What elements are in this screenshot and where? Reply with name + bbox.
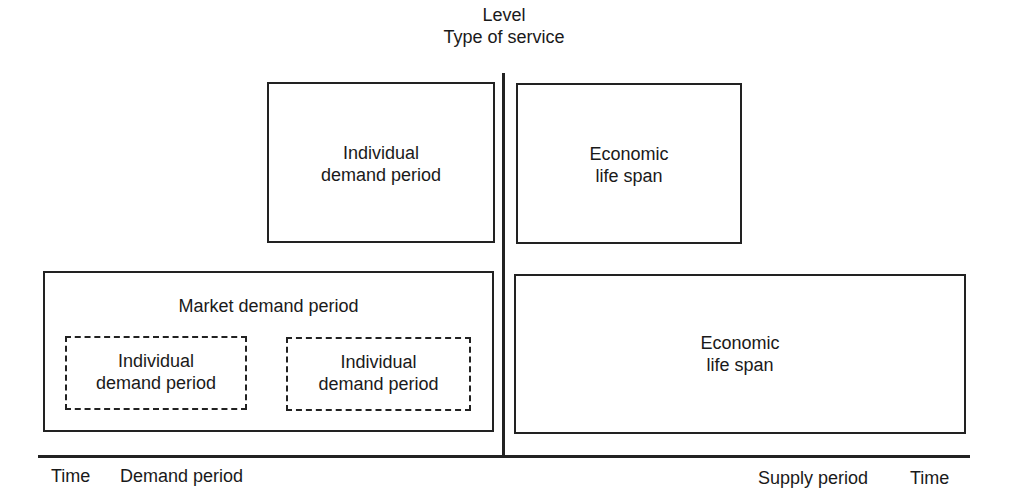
market-demand-period-title: Market demand period [45,295,492,317]
upper-economic-life-span-box: Economic life span [516,83,742,244]
upper-individual-demand-period-label: Individual demand period [269,142,493,186]
subbox-1-label: Individual demand period [67,350,245,394]
subbox-1-line2: demand period [67,372,245,394]
individual-demand-period-subbox-1: Individual demand period [65,336,247,410]
upper-left-line2: demand period [269,164,493,186]
vertical-axis-label-level: Level [404,4,604,26]
subbox-2-label: Individual demand period [288,351,469,395]
right-time-label: Time [910,467,949,489]
upper-right-line2: life span [518,165,740,187]
vertical-axis-label-type-of-service: Type of service [404,26,604,48]
lower-economic-life-span-label: Economic life span [516,332,964,376]
upper-economic-life-span-label: Economic life span [518,143,740,187]
upper-left-line1: Individual [269,142,493,164]
subbox-2-line2: demand period [288,373,469,395]
supply-period-axis-label: Supply period [758,467,868,489]
lower-right-line1: Economic [516,332,964,354]
individual-demand-period-subbox-2: Individual demand period [286,337,471,411]
demand-period-axis-label: Demand period [120,465,243,487]
lower-economic-life-span-box: Economic life span [514,274,966,434]
vertical-axis-line [502,73,505,458]
vertical-axis-label: Level Type of service [404,4,604,48]
horizontal-axis-line [38,455,970,458]
subbox-1-line1: Individual [67,350,245,372]
upper-right-line1: Economic [518,143,740,165]
upper-individual-demand-period-box: Individual demand period [267,82,495,243]
subbox-2-line1: Individual [288,351,469,373]
lower-right-line2: life span [516,354,964,376]
left-time-label: Time [51,465,90,487]
